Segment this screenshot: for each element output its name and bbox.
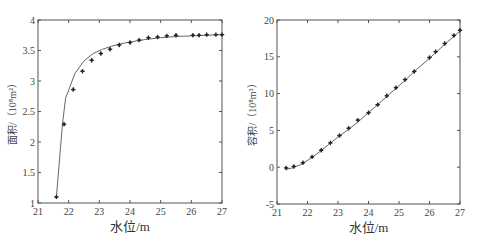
y-axis-label: 容积/（10⁸m³） (246, 78, 258, 145)
data-point-marker (346, 126, 350, 130)
x-axis-label: 水位/m (110, 219, 150, 234)
x-tick-label: 25 (156, 206, 166, 217)
data-point-marker (54, 195, 58, 199)
data-point-marker (191, 33, 195, 37)
y-tick-label: 10 (264, 88, 274, 99)
y-tick-label: 5 (269, 125, 274, 136)
x-tick-label: 27 (217, 206, 227, 217)
y-axis-label: 面积/（10⁸m²） (7, 78, 18, 145)
data-point-marker (71, 87, 75, 91)
y-tick-label: 3 (30, 76, 35, 87)
y-tick-label: 4 (30, 15, 35, 26)
data-point-marker (137, 38, 141, 42)
data-point-marker (197, 33, 201, 37)
data-point-marker (89, 58, 93, 62)
data-point-marker (214, 32, 218, 36)
x-tick-label: 22 (64, 206, 74, 217)
x-tick-label: 23 (333, 207, 343, 218)
y-tick-label: -5 (266, 199, 274, 210)
y-tick-label: 1.5 (23, 167, 36, 178)
data-point-marker (452, 33, 456, 37)
fitted-curve (56, 35, 222, 197)
y-tick-label: 20 (264, 15, 274, 26)
axes-frame (38, 20, 222, 203)
y-tick-label: 3.5 (23, 45, 36, 56)
x-axis-label: 水位/m (349, 220, 389, 235)
y-tick-label: 2.5 (23, 106, 36, 117)
chart-canvas: 2122232425262711.522.533.54水位/m面积/（10⁸m²… (0, 0, 477, 241)
x-tick-label: 26 (186, 206, 196, 217)
x-tick-label: 24 (125, 206, 135, 217)
data-point-marker (128, 40, 132, 44)
data-point-marker (204, 32, 208, 36)
data-point-marker (220, 32, 224, 36)
y-tick-label: 0 (269, 162, 274, 173)
y-tick-label: 15 (264, 51, 274, 62)
x-tick-label: 24 (364, 207, 374, 218)
chart-panel-1: 2122232425262711.522.533.54水位/m面积/（10⁸m²… (7, 15, 227, 235)
x-tick-label: 23 (94, 206, 104, 217)
data-point-marker (99, 51, 103, 55)
data-point-marker (80, 69, 84, 73)
x-tick-label: 27 (455, 207, 465, 218)
data-point-marker (356, 118, 360, 122)
x-tick-label: 26 (425, 207, 435, 218)
x-tick-label: 25 (394, 207, 404, 218)
y-tick-label: 1 (30, 198, 35, 209)
x-tick-label: 22 (303, 207, 313, 218)
data-point-marker (433, 49, 437, 53)
chart-panel-2: 21222324252627-505101520水位/m容积/（10⁸m³） (246, 15, 465, 236)
y-tick-label: 2 (30, 137, 35, 148)
